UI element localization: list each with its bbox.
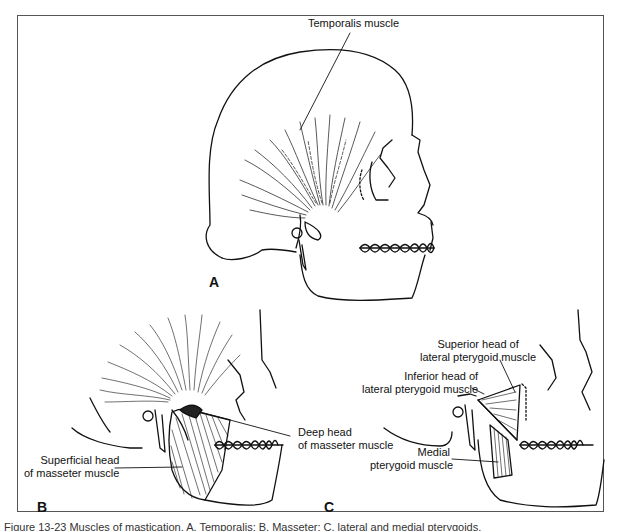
skull-a-arch (360, 170, 364, 200)
panel-a-skull (206, 33, 434, 300)
skull-b-mandible (205, 445, 282, 505)
skull-a-upper-teeth (360, 244, 434, 253)
label-superior-head-line1: Superior head of (420, 338, 536, 351)
medial-pterygoid-fibers (494, 428, 510, 476)
label-medial-line2: pterygoid muscle (370, 459, 450, 472)
label-superior-head-lateral-pterygoid: Superior head of lateral pterygoid muscl… (420, 338, 536, 364)
panel-letter-a: A (209, 274, 219, 290)
label-inferior-head-lateral-pterygoid: Inferior head of lateral pterygoid muscl… (362, 370, 478, 396)
label-superior-head-line2: lateral pterygoid muscle (420, 351, 536, 364)
temporalis-leader-line (300, 33, 350, 130)
figure-caption: Figure 13-23 Muscles of mastication. A, … (4, 519, 481, 531)
lateral-pterygoid-fibers (478, 392, 517, 440)
panel-letter-c: C (324, 499, 334, 515)
skull-a-face (412, 135, 433, 225)
temporalis-fan-b (100, 315, 240, 402)
masseter-deep-head (180, 406, 202, 419)
temporalis-muscle-fibers (240, 115, 380, 218)
skull-b-ear (143, 411, 153, 421)
skull-a-zygoma (370, 162, 388, 200)
label-superficial-head-line1: Superficial head (24, 454, 119, 467)
label-deep-head-line1: Deep head (298, 426, 393, 439)
label-inferior-head-line2: lateral pterygoid muscle (362, 383, 478, 396)
medial-pterygoid-leader-line (452, 459, 498, 462)
skull-c-ear (453, 407, 463, 417)
superior-head-leader-line (500, 360, 515, 392)
label-inferior-head-line1: Inferior head of (362, 370, 478, 383)
skull-a-orbit (380, 140, 395, 187)
label-superficial-head-line2: of masseter muscle (24, 467, 119, 480)
skull-a-mandible (300, 255, 425, 300)
deep-head-leader-line (200, 412, 290, 436)
skull-a-ear (292, 228, 302, 238)
panel-letter-b: B (37, 499, 47, 515)
skull-c-teeth (520, 441, 593, 450)
skull-c-mandible (478, 440, 604, 507)
skull-a-occipital (222, 249, 296, 259)
label-medial-line1: Medial (370, 446, 450, 459)
label-medial-pterygoid: Medial pterygoid muscle (370, 446, 450, 472)
medial-pterygoid-muscle (490, 425, 512, 478)
label-temporalis-muscle: Temporalis muscle (308, 17, 399, 30)
label-superficial-head-masseter: Superficial head of masseter muscle (24, 454, 119, 480)
